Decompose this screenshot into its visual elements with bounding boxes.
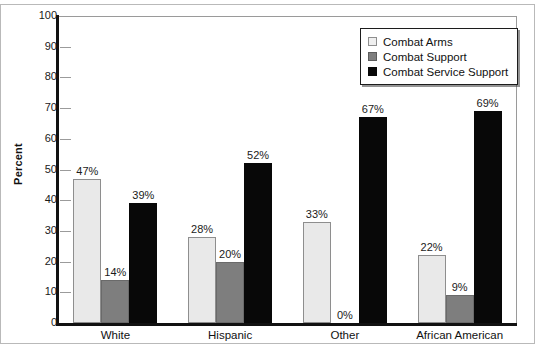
legend-swatch-icon-combat-arms [368, 37, 377, 46]
y-axis-tick [60, 292, 71, 293]
legend-label-combat-support: Combat Support [383, 51, 467, 63]
legend-label-combat-service-support: Combat Service Support [383, 66, 508, 78]
legend-item-combat-arms: Combat Arms [368, 34, 508, 49]
y-axis-tick-label: 60 [17, 133, 57, 144]
y-axis-tick-label: 70 [17, 102, 57, 113]
y-axis-tick-label: 40 [17, 194, 57, 205]
bar-value-label: 67% [352, 103, 394, 115]
bar-combat-service-support-other [359, 117, 387, 323]
bar-value-label: 52% [237, 149, 279, 161]
y-axis-tick [60, 77, 71, 78]
y-axis-tick-label: 10 [17, 286, 57, 297]
y-axis-tick [60, 262, 71, 263]
y-axis-tick-label: 90 [17, 41, 57, 52]
y-axis-tick [60, 47, 71, 48]
bar-value-label: 69% [467, 97, 509, 109]
bar-combat-support-hispanic [216, 262, 244, 323]
y-axis-tick [60, 108, 71, 109]
y-axis-tick-label: 0 [17, 317, 57, 328]
x-axis-category-label: White [58, 329, 173, 341]
legend-label-combat-arms: Combat Arms [383, 36, 453, 48]
bar-combat-support-white [101, 280, 129, 323]
y-axis-tick [60, 231, 71, 232]
x-axis-line [56, 323, 517, 326]
bar-value-label: 28% [181, 223, 223, 235]
bar-combat-arms-white [73, 179, 101, 323]
legend-item-combat-service-support: Combat Service Support [368, 64, 508, 79]
y-axis-tick-label: 50 [17, 164, 57, 175]
chart-legend: Combat Arms Combat Support Combat Servic… [360, 28, 518, 85]
y-axis-tick-label: 30 [17, 225, 57, 236]
legend-item-combat-support: Combat Support [368, 49, 508, 64]
legend-swatch-icon-combat-support [368, 52, 377, 61]
bar-combat-service-support-white [129, 203, 157, 323]
x-axis-category-label: Hispanic [173, 329, 288, 341]
y-axis-tick [60, 200, 71, 201]
y-axis-tick-label: 100 [17, 10, 57, 21]
y-axis-tick [60, 139, 71, 140]
bar-value-label: 39% [122, 189, 164, 201]
x-axis-category-label: Other [288, 329, 403, 341]
x-axis-category-label: African American [402, 329, 517, 341]
legend-swatch-icon-combat-service-support [368, 67, 377, 76]
bar-combat-service-support-african-american [474, 111, 502, 323]
bar-value-label: 47% [66, 165, 108, 177]
bar-combat-arms-other [303, 222, 331, 323]
bar-combat-support-african-american [446, 295, 474, 323]
bar-value-label: 22% [411, 241, 453, 253]
y-axis-tick-label: 20 [17, 256, 57, 267]
bar-combat-service-support-hispanic [244, 163, 272, 323]
bar-value-label: 33% [296, 208, 338, 220]
y-axis-tick-label: 80 [17, 71, 57, 82]
bar-chart: Percent 010203040506070809010047%14%39%W… [0, 0, 539, 352]
